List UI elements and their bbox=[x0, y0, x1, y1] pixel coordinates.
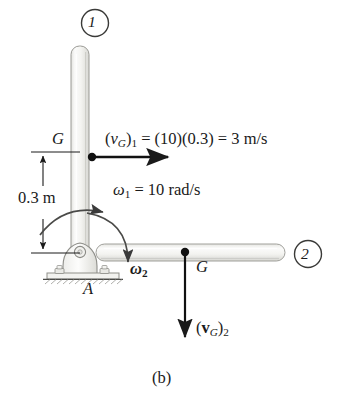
label-velocity-g2: (vG)2 bbox=[196, 320, 229, 338]
velocity-index-2: 2 bbox=[223, 326, 229, 338]
label-omega-2: ω2 bbox=[130, 261, 148, 279]
velocity-subscript-1: G bbox=[118, 137, 126, 149]
figure-caption: (b) bbox=[152, 370, 171, 387]
velocity-arrow-1 bbox=[88, 153, 168, 161]
omega-symbol-1: ω bbox=[113, 180, 125, 199]
velocity-subscript-2: G bbox=[210, 326, 218, 338]
label-center-of-mass-horizontal: G bbox=[196, 259, 208, 276]
equation-omega-1: ω1 = 10 rad/s bbox=[113, 182, 201, 200]
marker-label-2: 2 bbox=[301, 246, 309, 262]
equation-velocity-g1: (vG)1 = (10)(0.3) = 3 m/s bbox=[105, 131, 267, 149]
marker-label-1: 1 bbox=[88, 14, 96, 30]
horizontal-rod bbox=[96, 244, 285, 261]
omega-rhs-1: = 10 rad/s bbox=[130, 180, 200, 199]
velocity-symbol-1: v bbox=[111, 129, 118, 148]
label-support-point-a: A bbox=[83, 281, 93, 298]
velocity-rhs-1: = (10)(0.3) = 3 m/s bbox=[137, 129, 267, 148]
bolt-right bbox=[100, 266, 109, 274]
label-center-of-mass-vertical: G bbox=[52, 131, 64, 148]
label-dimension: 0.3 m bbox=[18, 190, 56, 207]
velocity-symbol-2: v bbox=[202, 318, 210, 337]
